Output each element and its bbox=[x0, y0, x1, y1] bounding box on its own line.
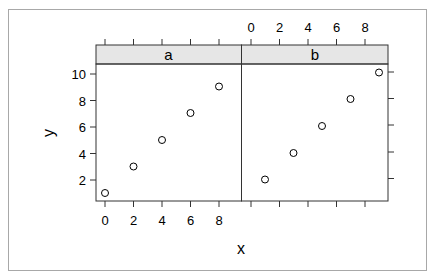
top-tick-2: 2 bbox=[276, 20, 283, 35]
top-tick-4: 4 bbox=[304, 20, 311, 35]
top-tick-8: 8 bbox=[361, 20, 368, 35]
top-tick-0: 0 bbox=[247, 20, 254, 35]
lattice-plot: a b 0 2 4 6 8 0 2 bbox=[0, 0, 434, 278]
y-axis-title: y bbox=[40, 129, 57, 137]
y-tick-10: 10 bbox=[72, 67, 86, 82]
y-tick-4: 4 bbox=[79, 147, 86, 162]
strip-b-label: b bbox=[311, 46, 319, 63]
top-x-axis-labels: 0 2 4 6 8 bbox=[247, 20, 368, 35]
panel-a bbox=[96, 64, 242, 201]
right-y-ticks bbox=[388, 72, 394, 179]
y-tick-6: 6 bbox=[79, 120, 86, 135]
panel-b-top-ticks bbox=[251, 39, 365, 45]
panel-a-top-ticks bbox=[105, 39, 219, 45]
strip-row: a b bbox=[96, 45, 388, 64]
panel-a-points bbox=[102, 83, 223, 197]
bottom-tick-0: 0 bbox=[101, 213, 108, 228]
bottom-tick-6: 6 bbox=[187, 213, 194, 228]
strip-a-label: a bbox=[164, 46, 173, 63]
x-axis-title: x bbox=[237, 240, 245, 257]
left-y-axis-labels: 10 8 6 4 2 bbox=[72, 67, 86, 188]
y-tick-2: 2 bbox=[79, 173, 86, 188]
top-tick-6: 6 bbox=[333, 20, 340, 35]
panel-b-points bbox=[262, 69, 383, 183]
y-tick-8: 8 bbox=[79, 94, 86, 109]
bottom-tick-8: 8 bbox=[215, 213, 222, 228]
bottom-tick-2: 2 bbox=[130, 213, 137, 228]
bottom-tick-4: 4 bbox=[158, 213, 165, 228]
panel-b bbox=[242, 64, 389, 201]
left-y-ticks bbox=[90, 74, 96, 180]
bottom-x-axis-labels: 0 2 4 6 8 bbox=[101, 213, 222, 228]
bottom-ticks bbox=[105, 201, 365, 207]
